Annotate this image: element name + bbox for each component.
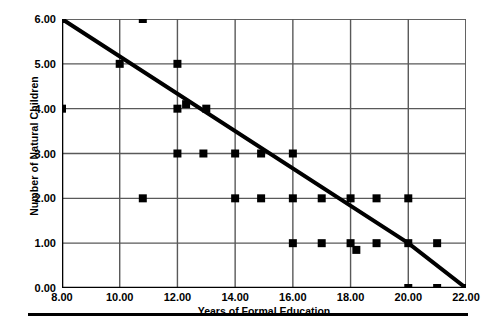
y-axis-tick-labels: 0.001.002.003.004.005.006.00: [8, 0, 56, 321]
data-point-marker: [173, 60, 181, 68]
data-point-marker: [433, 284, 441, 288]
y-tick-label: 2.00: [12, 192, 56, 204]
y-tick-label: 3.00: [12, 148, 56, 160]
data-point-marker: [289, 239, 297, 247]
data-point-marker: [347, 194, 355, 202]
data-point-marker: [199, 150, 207, 158]
x-tick-label: 18.00: [321, 291, 381, 303]
data-point-marker: [116, 60, 124, 68]
data-point-marker: [62, 105, 66, 113]
data-point-marker: [257, 194, 265, 202]
figure-divider-rule: [28, 313, 468, 316]
x-tick-label: 16.00: [263, 291, 323, 303]
x-tick-label: 8.00: [32, 291, 92, 303]
x-tick-label: 22.00: [436, 291, 481, 303]
data-point-marker: [231, 194, 239, 202]
data-point-marker: [373, 239, 381, 247]
plot-area: [62, 19, 466, 288]
data-point-marker: [404, 194, 412, 202]
data-point-marker: [173, 105, 181, 113]
x-tick-label: 14.00: [205, 291, 265, 303]
data-point-marker: [139, 19, 147, 23]
x-tick-label: 12.00: [147, 291, 207, 303]
data-point-marker: [62, 19, 66, 23]
data-point-marker: [373, 194, 381, 202]
data-point-marker: [182, 100, 190, 108]
y-tick-label: 1.00: [12, 237, 56, 249]
data-point-marker: [202, 105, 210, 113]
x-tick-label: 10.00: [90, 291, 150, 303]
data-point-marker: [289, 150, 297, 158]
data-point-marker: [257, 150, 265, 158]
y-tick-label: 4.00: [12, 103, 56, 115]
data-point-marker: [318, 194, 326, 202]
data-point-marker: [404, 239, 412, 247]
data-point-marker: [318, 239, 326, 247]
plot-svg: [62, 19, 466, 288]
y-tick-label: 5.00: [12, 58, 56, 70]
data-point-marker: [352, 246, 360, 254]
chart-figure: Number of Natural Children 0.001.002.003…: [0, 0, 481, 321]
data-point-marker: [173, 150, 181, 158]
data-point-marker: [462, 284, 466, 288]
data-point-marker: [139, 194, 147, 202]
y-tick-label: 6.00: [12, 13, 56, 25]
data-point-marker: [404, 284, 412, 288]
x-tick-label: 20.00: [378, 291, 438, 303]
data-point-marker: [289, 194, 297, 202]
data-point-marker: [433, 239, 441, 247]
data-point-marker: [231, 150, 239, 158]
